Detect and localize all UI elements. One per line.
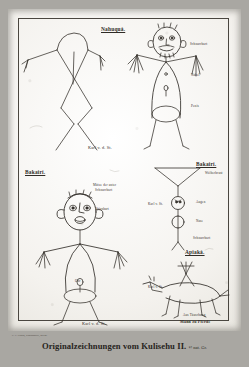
panel-middle-right-tribe-label: Bakairí. — [196, 162, 216, 168]
middle-left-figure — [36, 190, 127, 325]
annotation-stirnbart: Stirnbart — [96, 208, 109, 211]
man-on-horseback-figure — [143, 262, 229, 318]
annotation-muetze: Mütze der unter — [93, 184, 116, 187]
annotation-schnurrbart-middle: Schnurrbart — [95, 189, 112, 192]
drawings-layer — [0, 0, 249, 367]
plate-caption: Originalzeichnungen vom Kulisehu II. ½ n… — [0, 341, 249, 351]
top-left-figure — [22, 33, 105, 150]
panel-top-tribe-label: Nahuquá. — [101, 27, 125, 33]
panel-bottom-right-tribe-label: Apiaká. — [185, 250, 205, 256]
plate-caption-title: Originalzeichnungen vom Kulisehu II. — [42, 341, 186, 351]
annotation-schnurrbart-right: Schnurrbart — [193, 237, 210, 240]
annotation-augen: Augen — [196, 201, 206, 204]
annotation-weiberbrust: Weiberbrust — [205, 172, 223, 175]
signature-top-panel: Karl v. d. St. — [88, 146, 112, 150]
signature-middle-right-panel: Karl v. St. — [148, 203, 163, 206]
plate-image: Nahuquá. Schnurrbart Nabel Penis Karl v.… — [0, 0, 249, 367]
signature-middle-left-panel: Karl v. d. St. — [82, 322, 106, 326]
annotation-nase: Nase — [196, 220, 203, 223]
signature-bottom-right-panel: Karl v. St. — [148, 286, 163, 289]
plate-caption-scale: ½ nat. Gr. — [189, 345, 207, 350]
annotation-nabel: Nabel — [191, 74, 200, 77]
panel-middle-left-tribe-label: Bakairí. — [25, 170, 45, 176]
annotation-ohr: Ohr — [75, 280, 81, 283]
caption-mann-zu-pferde: Mann zu Pferde — [180, 320, 210, 324]
annotation-schnurrbart-top: Schnurrbart — [190, 43, 207, 46]
annotation-penis: Penis — [191, 105, 199, 108]
printer-imprint: C. F. Nissen, Kunstanstalt, Berlin. — [12, 334, 47, 337]
caption-aus-taeuschung: Aus Täuschung — [183, 314, 205, 317]
